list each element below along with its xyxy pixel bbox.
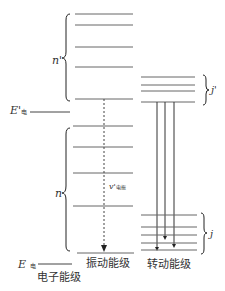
- arrow-head-icon: [163, 236, 167, 240]
- e-prime-symbol: E': [10, 104, 21, 117]
- e-subscript: 电: [30, 262, 36, 269]
- e-label: E 电: [18, 258, 36, 271]
- arrow-head-icon: [172, 244, 176, 248]
- upper-vibrational-levels: [75, 14, 133, 99]
- n-prime-brace: [62, 14, 70, 101]
- energy-level-diagram: [0, 0, 225, 291]
- electronic-levels-caption: 电子能级: [37, 268, 81, 284]
- rotational-transitions: [157, 102, 174, 248]
- n-prime-label: n': [52, 54, 62, 67]
- n-brace: [62, 128, 70, 251]
- upper-rotational-levels: [141, 77, 195, 102]
- j-prime-brace: [203, 75, 209, 105]
- lower-rotational-levels: [141, 215, 197, 250]
- v-prime-subscript: 电振: [116, 184, 126, 190]
- rotational-levels-caption: 转动能级: [147, 255, 191, 271]
- arrow-head-icon: [101, 245, 107, 252]
- j-label: j: [210, 228, 213, 239]
- v-prime-label: v'电振: [109, 182, 126, 191]
- j-brace: [201, 213, 207, 254]
- e-prime-subscript: 电: [21, 108, 27, 115]
- n-label: n: [55, 187, 62, 200]
- e-prime-label: E'电: [10, 104, 27, 117]
- v-prime-symbol: v': [109, 182, 116, 191]
- vibrational-levels-caption: 振动能级: [86, 254, 130, 270]
- e-symbol: E: [18, 258, 26, 271]
- j-prime-label: j': [211, 84, 217, 95]
